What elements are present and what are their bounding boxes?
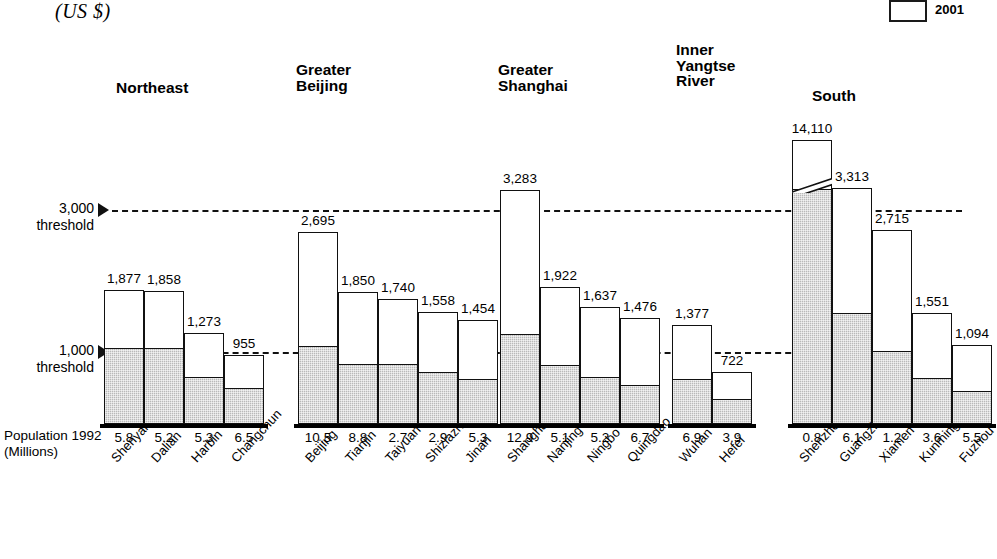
bar-segment-1992-shenyang bbox=[105, 348, 143, 423]
bar-group-nanjing: 1,9225.1Nanjing bbox=[540, 0, 580, 559]
bar-group-fuzhou: 1,0945.5Fuzhou bbox=[952, 0, 992, 559]
bar-value-dalian: 1,858 bbox=[147, 272, 181, 287]
bar-xiamen[interactable] bbox=[872, 230, 912, 424]
bar-nanjing[interactable] bbox=[540, 287, 580, 424]
bar-shenzhen[interactable] bbox=[792, 140, 832, 424]
bar-group-kunming: 1,5513.6Kunming bbox=[912, 0, 952, 559]
bar-value-ningbo: 1,637 bbox=[583, 288, 617, 303]
bar-harbin[interactable] bbox=[184, 333, 224, 424]
bar-segment-1992-dalian bbox=[145, 348, 183, 423]
bar-ningbo[interactable] bbox=[580, 307, 620, 424]
bar-quingdao[interactable] bbox=[620, 318, 660, 424]
bar-segment-1992-taiyuan bbox=[379, 364, 417, 423]
bar-shenyang[interactable] bbox=[104, 290, 144, 424]
bar-value-xiamen: 2,715 bbox=[875, 211, 909, 226]
bar-group-harbin: 1,2735.3Harbin bbox=[184, 0, 224, 559]
bar-group-changchun: 9556.5Changchun bbox=[224, 0, 264, 559]
bar-group-wuhan: 1,3776.9Wuhan bbox=[672, 0, 712, 559]
bar-value-kunming: 1,551 bbox=[915, 294, 949, 309]
bar-kunming[interactable] bbox=[912, 313, 952, 424]
bar-segment-1992-shiziazhuang bbox=[419, 372, 457, 423]
bar-changchun[interactable] bbox=[224, 355, 264, 424]
bar-segment-1992-tianjin bbox=[339, 364, 377, 423]
bar-shiziazhuang[interactable] bbox=[418, 312, 458, 424]
bar-segment-1992-beijing bbox=[299, 346, 337, 423]
bar-value-guangzhou: 3,313 bbox=[835, 169, 869, 184]
bar-value-wuhan: 1,377 bbox=[675, 306, 709, 321]
bar-segment-1992-xiamen bbox=[873, 351, 911, 423]
bar-segment-1992-harbin bbox=[185, 377, 223, 423]
threshold-1000-label: 1,000 threshold bbox=[36, 342, 94, 375]
bar-dalian[interactable] bbox=[144, 291, 184, 424]
threshold-3000-label: 3,000 threshold bbox=[36, 200, 94, 233]
bar-group-tianjin: 1,8508.8Tianjin bbox=[338, 0, 378, 559]
bar-segment-1992-wuhan bbox=[673, 379, 711, 423]
bar-group-shanghai: 3,28312.9Shanghai bbox=[500, 0, 540, 559]
bar-group-hefei: 7223.9Hefei bbox=[712, 0, 752, 559]
bar-segment-1992-guangzhou bbox=[833, 313, 871, 423]
bar-value-jinan: 1,454 bbox=[461, 301, 495, 316]
bar-group-guangzhou: 3,3136.1Guangzhou bbox=[832, 0, 872, 559]
bar-group-xiamen: 2,7151.2Xiamen bbox=[872, 0, 912, 559]
bar-group-taiyuan: 1,7402.7Taiyuan bbox=[378, 0, 418, 559]
bar-group-shiziazhuang: 1,5582.9Shiziazhuang bbox=[418, 0, 458, 559]
bar-segment-1992-jinan bbox=[459, 379, 497, 423]
bar-segment-1992-quingdao bbox=[621, 385, 659, 423]
bar-value-quingdao: 1,476 bbox=[623, 299, 657, 314]
bar-value-shenyang: 1,877 bbox=[107, 271, 141, 286]
bar-group-shenzhen: 14,1100.8Shenzhen bbox=[792, 0, 832, 559]
bar-value-tianjin: 1,850 bbox=[341, 273, 375, 288]
bar-value-shanghai: 3,283 bbox=[503, 171, 537, 186]
bar-group-ningbo: 1,6375.2Ningbo bbox=[580, 0, 620, 559]
bar-jinan[interactable] bbox=[458, 320, 498, 424]
bar-wuhan[interactable] bbox=[672, 325, 712, 424]
bar-value-beijing: 2,695 bbox=[301, 213, 335, 228]
bar-value-changchun: 955 bbox=[233, 336, 256, 351]
unit-label: (US $) bbox=[55, 0, 111, 23]
city-label-dalian: Dalian bbox=[148, 428, 184, 465]
city-label-hefei: Hefei bbox=[716, 433, 748, 465]
bar-taiyuan[interactable] bbox=[378, 299, 418, 424]
bar-value-shiziazhuang: 1,558 bbox=[421, 293, 455, 308]
bar-segment-1992-changchun bbox=[225, 388, 263, 423]
bar-segment-1992-hefei bbox=[713, 399, 751, 423]
bar-beijing[interactable] bbox=[298, 232, 338, 424]
bar-group-quingdao: 1,4766.7Quingdao bbox=[620, 0, 660, 559]
bar-group-beijing: 2,69510.5Beijing bbox=[298, 0, 338, 559]
bar-guangzhou[interactable] bbox=[832, 188, 872, 424]
bar-shanghai[interactable] bbox=[500, 190, 540, 424]
bar-segment-1992-shenzhen bbox=[793, 189, 831, 423]
city-label-jinan: Jinan bbox=[462, 432, 494, 465]
bar-segment-1992-kunming bbox=[913, 378, 951, 423]
bar-value-fuzhou: 1,094 bbox=[955, 326, 989, 341]
bar-segment-1992-ningbo bbox=[581, 377, 619, 423]
bar-tianjin[interactable] bbox=[338, 292, 378, 424]
population-axis-label: Population 1992 (Millions) bbox=[4, 428, 102, 460]
bar-group-jinan: 1,4545.3Jinan bbox=[458, 0, 498, 559]
bar-segment-1992-fuzhou bbox=[953, 391, 991, 423]
bar-group-dalian: 1,8585.2Dalian bbox=[144, 0, 184, 559]
bar-segment-1992-nanjing bbox=[541, 365, 579, 423]
bar-fuzhou[interactable] bbox=[952, 345, 992, 424]
bar-value-nanjing: 1,922 bbox=[543, 268, 577, 283]
bar-group-shenyang: 1,8775.8Shenyang bbox=[104, 0, 144, 559]
bar-segment-1992-shanghai bbox=[501, 334, 539, 423]
bar-value-taiyuan: 1,740 bbox=[381, 280, 415, 295]
bar-hefei[interactable] bbox=[712, 372, 752, 424]
bar-value-hefei: 722 bbox=[721, 353, 744, 368]
bar-value-shenzhen: 14,110 bbox=[792, 121, 832, 136]
bar-value-harbin: 1,273 bbox=[187, 314, 221, 329]
